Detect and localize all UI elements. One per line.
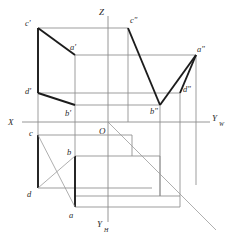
label-b: b xyxy=(67,147,71,157)
edge-adprime-bdprime xyxy=(160,55,196,105)
label-x-axis: X xyxy=(7,117,14,127)
label-origin: O xyxy=(99,126,106,136)
label-b-double-prime: b" xyxy=(150,106,158,116)
projection-diagram: c' a' d' b' c" a" d" b" c b d a Z X O Y … xyxy=(0,0,234,240)
front-view-construction xyxy=(38,28,196,156)
edge-cdprime-bdprime xyxy=(128,28,160,105)
label-d-prime: d' xyxy=(25,86,31,96)
edge-dprime-bprime xyxy=(38,93,75,105)
top-view-diagonals xyxy=(38,135,75,207)
projection-svg: c' a' d' b' c" a" d" b" c b d a Z X O Y … xyxy=(0,0,234,240)
top-view-labels: c b d a xyxy=(27,128,73,220)
label-c: c xyxy=(29,128,33,138)
coordinate-axes xyxy=(22,16,210,222)
label-d: d xyxy=(27,189,32,199)
label-b-prime: b' xyxy=(65,108,71,118)
label-c-double-prime: c" xyxy=(130,15,138,25)
top-view-construction xyxy=(38,135,180,207)
diagonal-d-b xyxy=(38,156,75,188)
label-a: a xyxy=(69,210,73,220)
label-yh-axis: Y xyxy=(97,219,103,229)
label-z-axis: Z xyxy=(99,7,105,17)
label-yh-subscript: H xyxy=(103,227,109,233)
bisector-diagonal-line xyxy=(108,122,216,230)
label-c-prime: c' xyxy=(25,18,31,28)
diagonal-c-a xyxy=(38,135,75,207)
side-view-labels: c" a" d" b" xyxy=(130,15,205,116)
axis-labels: Z X O Y W Y H xyxy=(7,7,225,233)
label-d-double-prime: d" xyxy=(183,84,191,94)
label-yw-axis: Y xyxy=(212,113,218,123)
label-a-double-prime: a" xyxy=(197,44,205,54)
label-yw-subscript: W xyxy=(219,121,225,127)
label-a-prime: a' xyxy=(70,42,76,52)
